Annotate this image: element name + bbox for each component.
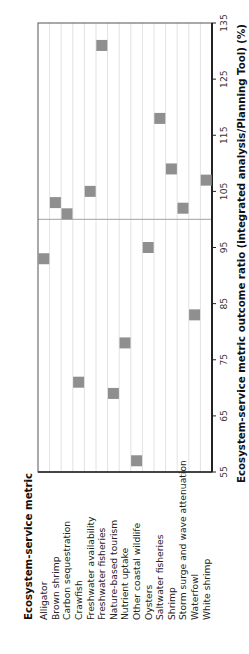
data-marker — [96, 40, 107, 51]
tick-label: 105 — [218, 182, 229, 200]
category-label: Nutrient uptake — [119, 547, 130, 620]
legend-title: Ecosystem-service metric — [23, 473, 34, 620]
tick-label: 95 — [218, 242, 229, 254]
category-label: Brown shrimp — [50, 556, 61, 620]
data-marker — [166, 163, 177, 174]
category-label: Other coastal wildlife — [131, 522, 142, 620]
category-label: Waterfowl — [189, 574, 200, 620]
tick-label: 135 — [218, 14, 229, 32]
plot-border — [38, 23, 212, 472]
data-marker — [38, 253, 49, 264]
category-label: Oysters — [143, 585, 154, 620]
category-label: Freshwater fisheries — [96, 527, 107, 620]
data-markers — [38, 40, 211, 466]
category-label: Carbon sequestration — [61, 521, 72, 620]
data-marker — [143, 242, 154, 253]
data-marker — [73, 377, 84, 388]
category-label: Saltwater fisheries — [154, 534, 165, 620]
category-label: White shrimp — [201, 558, 212, 620]
x-axis-title: Ecosystem-service metric outcome ratio (… — [236, 24, 247, 483]
data-marker — [189, 309, 200, 320]
data-marker — [85, 186, 96, 197]
tick-label: 75 — [218, 354, 229, 366]
tick-label: 65 — [218, 410, 229, 422]
data-marker — [120, 337, 131, 348]
plot-frame — [38, 23, 212, 472]
data-marker — [154, 113, 165, 124]
category-labels: AlligatorBrown shrimpCarbon sequestratio… — [38, 460, 211, 620]
category-label: Freshwater availability — [85, 516, 96, 620]
data-marker — [201, 175, 212, 186]
tick-label: 55 — [218, 466, 229, 478]
data-marker — [62, 208, 73, 219]
category-label: Crawfish — [73, 580, 84, 620]
data-marker — [178, 203, 189, 214]
data-marker — [108, 388, 119, 399]
data-marker — [50, 197, 61, 208]
category-label: Shrimp — [166, 587, 177, 620]
rotated-chart-container: 5565758595105115125135 Ecosystem-service… — [0, 0, 249, 654]
tick-label: 115 — [218, 126, 229, 144]
category-label: Alligator — [38, 581, 49, 620]
category-label: Storm surge and wave attenuation — [177, 460, 188, 620]
category-label: Nature-based tourism — [108, 520, 119, 620]
scatter-chart: 5565758595105115125135 Ecosystem-service… — [0, 0, 249, 654]
tick-label: 125 — [218, 70, 229, 88]
tick-label: 85 — [218, 298, 229, 310]
x-axis-ticks: 5565758595105115125135 — [212, 14, 229, 478]
gridlines — [50, 23, 201, 472]
data-marker — [131, 455, 142, 466]
